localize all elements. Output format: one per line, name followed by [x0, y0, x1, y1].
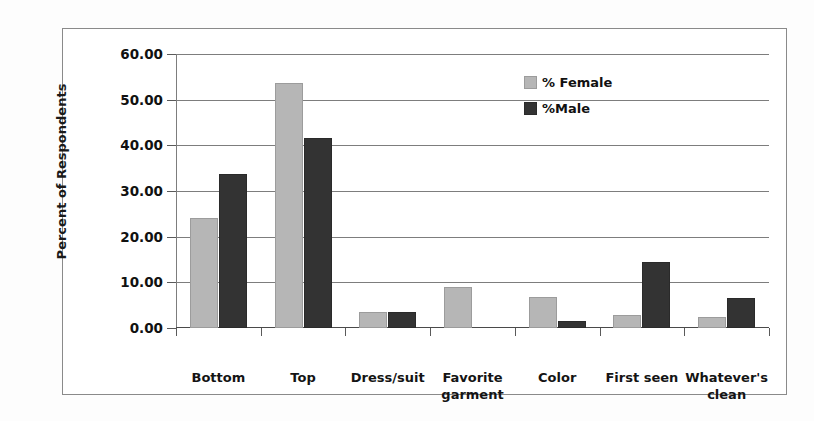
- x-axis-label-line: Top: [261, 369, 346, 386]
- legend-label: %Male: [542, 101, 590, 116]
- bar: [613, 315, 641, 328]
- x-axis-label: Color: [515, 369, 600, 386]
- x-axis-label: Dress/suit: [345, 369, 430, 386]
- bar: [388, 312, 416, 328]
- gridline: [176, 54, 769, 55]
- legend-item: % Female: [524, 69, 694, 95]
- y-tick-label: 50.00: [120, 92, 163, 108]
- x-axis-label: First seen: [600, 369, 685, 386]
- x-tick-mark: [515, 328, 516, 336]
- y-tick-mark: [167, 282, 176, 283]
- y-tick-label: 20.00: [120, 229, 163, 245]
- x-axis-label-line: clean: [684, 386, 769, 403]
- x-axis-label-line: First seen: [600, 369, 685, 386]
- gridline: [176, 237, 769, 238]
- y-tick-label: 30.00: [120, 183, 163, 199]
- y-tick-label: 0.00: [130, 320, 163, 336]
- y-tick-mark: [167, 237, 176, 238]
- y-tick-mark: [167, 54, 176, 55]
- x-axis-label-line: garment: [430, 386, 515, 403]
- x-axis-label-line: Color: [515, 369, 600, 386]
- legend-swatch-icon: [524, 102, 537, 115]
- x-axis-label: Favoritegarment: [430, 369, 515, 403]
- bar: [558, 321, 586, 328]
- x-axis-label: Whatever'sclean: [684, 369, 769, 403]
- x-tick-mark: [345, 328, 346, 336]
- chart-frame: Percent of Respondents 0.0010.0020.0030.…: [62, 28, 787, 395]
- bar: [359, 312, 387, 328]
- x-axis-label-line: Bottom: [176, 369, 261, 386]
- y-axis-title: Percent of Respondents: [54, 12, 69, 332]
- x-tick-mark: [684, 328, 685, 336]
- x-tick-mark: [430, 328, 431, 336]
- y-tick-mark: [167, 100, 176, 101]
- bar: [219, 174, 247, 328]
- x-tick-mark: [769, 328, 770, 336]
- y-tick-mark: [167, 145, 176, 146]
- x-axis-label: Top: [261, 369, 346, 386]
- y-tick-mark: [167, 191, 176, 192]
- bar: [275, 83, 303, 328]
- bar: [529, 297, 557, 328]
- bar: [190, 218, 218, 329]
- bar: [444, 287, 472, 328]
- gridline: [176, 282, 769, 283]
- y-tick-mark: [167, 328, 176, 329]
- legend-item: %Male: [524, 95, 694, 121]
- x-axis-label-line: Favorite: [430, 369, 515, 386]
- chart-figure: Percent of Respondents 0.0010.0020.0030.…: [0, 0, 814, 421]
- y-tick-label: 10.00: [120, 274, 163, 290]
- x-axis-label-line: Dress/suit: [345, 369, 430, 386]
- gridline: [176, 145, 769, 146]
- bar: [304, 138, 332, 328]
- x-tick-mark: [176, 328, 177, 336]
- chart-legend: % Female%Male: [524, 69, 694, 121]
- legend-label: % Female: [542, 75, 612, 90]
- x-axis-label: Bottom: [176, 369, 261, 386]
- x-tick-mark: [261, 328, 262, 336]
- y-tick-label: 60.00: [120, 46, 163, 62]
- bar: [727, 298, 755, 328]
- legend-swatch-icon: [524, 76, 537, 89]
- bar: [698, 317, 726, 328]
- x-tick-mark: [600, 328, 601, 336]
- x-axis-label-line: Whatever's: [684, 369, 769, 386]
- bar: [642, 262, 670, 328]
- x-axis-line: [176, 327, 769, 328]
- gridline: [176, 191, 769, 192]
- y-tick-label: 40.00: [120, 137, 163, 153]
